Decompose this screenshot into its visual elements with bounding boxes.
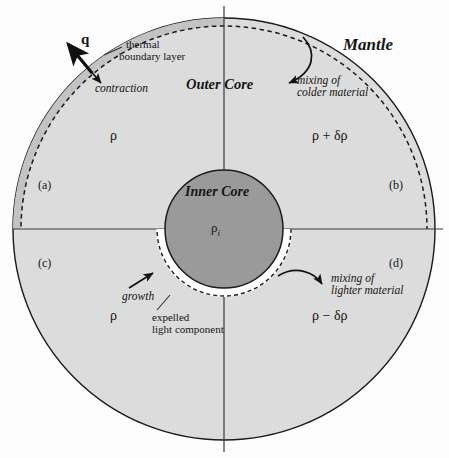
density-upper-left: ρ xyxy=(110,128,117,143)
inner-core-density-label: ρi xyxy=(211,221,220,238)
expelled-light-component-label-line2: light component xyxy=(152,323,224,335)
mixing-colder-label-line1: mixing of xyxy=(297,74,340,87)
thermal-boundary-layer-label-line2: boundary layer xyxy=(119,50,185,62)
mixing-lighter-label-line1: mixing of xyxy=(331,272,374,285)
density-upper-right: ρ + δρ xyxy=(312,128,347,143)
heat-flux-label: q xyxy=(81,31,89,48)
expelled-light-component-label-line1: expelled xyxy=(152,311,189,323)
inner-core-label: Inner Core xyxy=(185,184,249,199)
diagram-canvas xyxy=(0,0,449,458)
mantle-label: Mantle xyxy=(343,36,393,55)
quadrant-label-b: (b) xyxy=(389,179,403,192)
inner-core-density-subscript: i xyxy=(218,228,221,238)
density-lower-left: ρ xyxy=(110,308,117,323)
thermal-boundary-layer-label-line1: thermal xyxy=(126,38,160,50)
growth-label: growth xyxy=(122,290,154,303)
quadrant-label-c: (c) xyxy=(38,257,51,270)
quadrant-label-a: (a) xyxy=(38,179,51,192)
outer-core-label: Outer Core xyxy=(186,77,253,93)
core-convection-diagram: Mantle Outer Core Inner Core q thermal b… xyxy=(0,0,449,458)
density-lower-right: ρ − δρ xyxy=(312,308,347,323)
mixing-colder-label-line2: colder material xyxy=(297,86,368,99)
quadrant-label-d: (d) xyxy=(389,257,403,270)
mixing-lighter-label-line2: lighter material xyxy=(331,284,404,297)
contraction-label: contraction xyxy=(95,82,148,95)
